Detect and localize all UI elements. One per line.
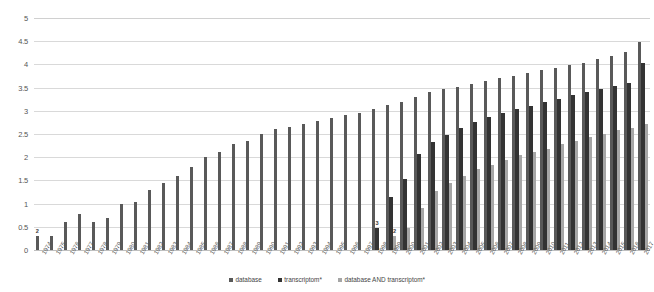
bar bbox=[529, 106, 532, 250]
bar bbox=[512, 76, 515, 250]
bar-group bbox=[580, 18, 594, 250]
chart-legend: databasetranscriptom*database AND transc… bbox=[0, 277, 654, 283]
legend-label: database bbox=[235, 277, 261, 283]
bar bbox=[582, 63, 585, 250]
bar-group bbox=[440, 18, 454, 250]
bar bbox=[344, 115, 347, 250]
bar-group bbox=[216, 18, 230, 250]
bar-group bbox=[90, 18, 104, 250]
bar bbox=[568, 65, 571, 250]
legend-item[interactable]: transcriptom* bbox=[278, 277, 322, 283]
bar-group bbox=[594, 18, 608, 250]
bar bbox=[484, 81, 487, 250]
bar-group bbox=[258, 18, 272, 250]
bar bbox=[631, 128, 634, 250]
bar-group bbox=[552, 18, 566, 250]
bar bbox=[533, 152, 536, 250]
y-axis-tick-label: 1 bbox=[0, 199, 28, 208]
bar bbox=[599, 89, 602, 250]
bar bbox=[456, 87, 459, 250]
bar-group bbox=[314, 18, 328, 250]
y-axis-tick-label: 0 bbox=[0, 246, 28, 255]
plot-area: 232 bbox=[34, 18, 650, 250]
bar bbox=[571, 95, 574, 250]
bar bbox=[575, 141, 578, 251]
bar-group bbox=[426, 18, 440, 250]
bar bbox=[36, 236, 39, 250]
legend-label: database AND transcriptom* bbox=[344, 277, 425, 283]
bar bbox=[557, 99, 560, 250]
bar bbox=[487, 117, 490, 250]
bar-group bbox=[524, 18, 538, 250]
bar bbox=[505, 160, 508, 250]
bar-group bbox=[636, 18, 650, 250]
bar bbox=[624, 52, 627, 250]
y-axis-tick-label: 2.5 bbox=[0, 130, 28, 139]
bar bbox=[148, 190, 151, 250]
bar bbox=[274, 129, 277, 250]
bar bbox=[470, 84, 473, 250]
x-axis-labels: 1974197519761977197819791980198119821983… bbox=[34, 252, 650, 278]
bar bbox=[417, 154, 420, 251]
bar-value-label: 2 bbox=[36, 228, 39, 234]
bar bbox=[613, 86, 616, 250]
bar bbox=[547, 149, 550, 250]
bar bbox=[428, 92, 431, 250]
bar-value-label: 2 bbox=[393, 228, 396, 234]
bar-group bbox=[496, 18, 510, 250]
bar bbox=[260, 134, 263, 250]
bar bbox=[498, 78, 501, 250]
bar bbox=[190, 167, 193, 250]
y-axis-labels: 00.511.522.533.544.55 bbox=[0, 18, 30, 250]
bar-chart: 00.511.522.533.544.55 232 19741975197619… bbox=[0, 0, 654, 292]
bar-group bbox=[356, 18, 370, 250]
bar bbox=[515, 109, 518, 250]
bar bbox=[218, 152, 221, 250]
bar bbox=[442, 89, 445, 250]
bar-group bbox=[188, 18, 202, 250]
bar-group bbox=[468, 18, 482, 250]
bar-group bbox=[300, 18, 314, 250]
bar bbox=[638, 42, 641, 250]
bar-group bbox=[34, 18, 48, 250]
bar bbox=[501, 113, 504, 250]
bar-group bbox=[230, 18, 244, 250]
bar-group bbox=[174, 18, 188, 250]
bar-group bbox=[510, 18, 524, 250]
y-axis-tick-label: 5 bbox=[0, 14, 28, 23]
bar bbox=[589, 137, 592, 250]
y-axis-tick-label: 3.5 bbox=[0, 83, 28, 92]
legend-item[interactable]: database bbox=[229, 277, 262, 283]
bar-group bbox=[272, 18, 286, 250]
bar bbox=[330, 118, 333, 250]
bar bbox=[176, 176, 179, 250]
bar bbox=[431, 142, 434, 250]
bar-group bbox=[160, 18, 174, 250]
y-axis-tick-label: 0.5 bbox=[0, 222, 28, 231]
bar bbox=[459, 128, 462, 250]
bar-group bbox=[328, 18, 342, 250]
bar-group bbox=[342, 18, 356, 250]
y-axis-tick-label: 3 bbox=[0, 106, 28, 115]
bar bbox=[246, 141, 249, 251]
legend-item[interactable]: database AND transcriptom* bbox=[338, 277, 425, 283]
bar-group bbox=[398, 18, 412, 250]
bar bbox=[414, 97, 417, 250]
y-axis-tick-label: 4 bbox=[0, 60, 28, 69]
bar bbox=[162, 183, 165, 250]
bar bbox=[389, 197, 392, 250]
bar-group bbox=[412, 18, 426, 250]
bar bbox=[543, 102, 546, 250]
bar bbox=[316, 121, 319, 250]
bar bbox=[445, 135, 448, 250]
bar bbox=[641, 63, 644, 250]
bar-group bbox=[132, 18, 146, 250]
bar bbox=[372, 109, 375, 250]
bar bbox=[540, 70, 543, 250]
bar bbox=[554, 68, 557, 250]
bar-group bbox=[202, 18, 216, 250]
bar-group bbox=[384, 18, 398, 250]
bar bbox=[288, 127, 291, 250]
bar bbox=[617, 130, 620, 250]
bar-group bbox=[454, 18, 468, 250]
